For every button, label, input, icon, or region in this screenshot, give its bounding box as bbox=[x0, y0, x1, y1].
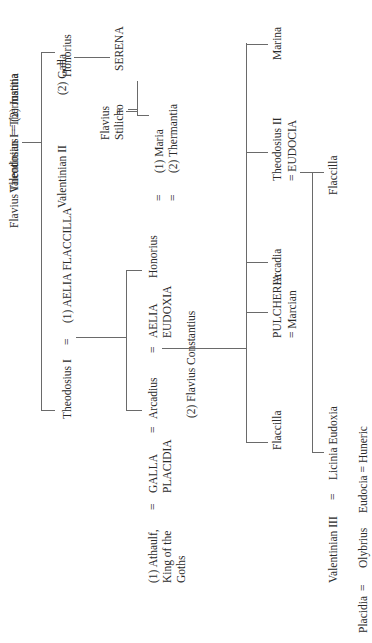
honorius-elder-stem bbox=[41, 52, 55, 53]
galla-placidia-line1: GALLA bbox=[146, 454, 160, 493]
valentinian-i-justina-label: Valentinian I = (2) Justina bbox=[7, 73, 21, 193]
eudocia-empress-label: = EUDOCIA bbox=[285, 120, 299, 181]
root-sibling-bar bbox=[41, 53, 42, 411]
thermantia-label: (2) Thermantia bbox=[166, 104, 180, 173]
marina-label: Marina bbox=[270, 27, 284, 60]
theodosius-ii-drop bbox=[300, 172, 312, 173]
stilicho-serena-hbar bbox=[137, 81, 138, 116]
aelia-eudoxia-line1: AELIA bbox=[146, 304, 160, 339]
stilicho-label-line1: Flavius bbox=[98, 106, 112, 140]
pulcheria-stem bbox=[246, 312, 268, 313]
arcadius-stem bbox=[126, 410, 142, 411]
honorius-emperor-label: Honorius bbox=[146, 235, 160, 278]
serena-drop-line bbox=[74, 57, 110, 58]
placidia-marriage-sign: = bbox=[356, 585, 370, 592]
valentinian-iii-label: Valentinian III bbox=[326, 516, 340, 583]
arcadius-label: Arcadius bbox=[146, 377, 160, 419]
athaulf-line2: King of the bbox=[160, 531, 174, 583]
maria-thermantia-link bbox=[137, 115, 149, 116]
stilicho-serena-drop bbox=[128, 109, 137, 110]
galla-theodosius-marriage-sign: = bbox=[55, 61, 69, 68]
maria-marriage-sign: = bbox=[152, 195, 166, 202]
theodosius-ii-label: Theodosius II bbox=[270, 117, 284, 181]
arcadia-label: Arcadia bbox=[270, 249, 284, 285]
licinia-eudoxia-label: Licinia Eudoxia bbox=[326, 406, 340, 480]
thermantia-marriage-sign: = bbox=[166, 195, 180, 202]
aelia-eudoxia-line2: EUDOXIA bbox=[160, 286, 174, 338]
arcadia-stem bbox=[246, 262, 268, 263]
theodosius-i-stem bbox=[41, 410, 55, 411]
placidia-label: Placidia bbox=[356, 596, 370, 633]
root-drop-line bbox=[22, 142, 41, 143]
marina-stem bbox=[246, 44, 268, 45]
flaccilla-granddaughter-stem bbox=[312, 172, 324, 173]
eudocia-huneric-label: Eudocia = Huneric bbox=[356, 426, 370, 513]
theodosius-i-label: Theodosius I bbox=[60, 359, 74, 419]
maria-label: (1) Maria bbox=[152, 129, 166, 173]
honorius-emperor-stem bbox=[126, 270, 142, 271]
aelia-flaccilla-label: (1) AELIA FLACCILLA bbox=[60, 207, 74, 323]
athaulf-line3: Goths bbox=[174, 556, 188, 583]
flavius-constantius-label: (2) Flavius Constantius bbox=[184, 311, 198, 418]
theodosius-children-bar bbox=[126, 271, 127, 411]
serena-label: SERENA bbox=[112, 26, 126, 71]
galla-placidia-left-marriage-sign: = bbox=[146, 504, 160, 511]
olybrius-label: Olybrius bbox=[356, 528, 370, 568]
theodosius-aelia-drop bbox=[76, 337, 126, 338]
flaccilla-daughter-stem bbox=[246, 442, 268, 443]
arcadius-marriage-sign: = bbox=[146, 347, 160, 354]
flaccilla-granddaughter-label: Flaccilla bbox=[326, 155, 340, 195]
galla-placidia-line2: PLACIDIA bbox=[160, 439, 174, 493]
theodosius-ii-children-bar bbox=[312, 173, 313, 453]
stilicho-label-line2: Stilicho bbox=[112, 104, 126, 140]
flaccilla-daughter-label: Flaccilla bbox=[270, 410, 284, 450]
marcian-label: = Marcian bbox=[285, 290, 299, 338]
athaulf-line1: (1) Athaulf, bbox=[146, 529, 160, 583]
theodosius-ii-stem bbox=[246, 152, 268, 153]
arcadius-eudoxia-drop bbox=[162, 348, 246, 349]
valentinian-ii-label: Valentinian II bbox=[55, 145, 69, 208]
arcadius-children-bar bbox=[246, 43, 247, 443]
licinia-eudoxia-stem bbox=[312, 452, 324, 453]
family-tree-diagram: Flavius Theodosius = Thermantia Honorius… bbox=[0, 0, 372, 643]
valentinian-iii-marriage-sign: = bbox=[326, 494, 340, 501]
galla-placidia-right-marriage-sign: = bbox=[146, 427, 160, 434]
theodosius-aelia-marriage-sign: = bbox=[60, 339, 74, 346]
